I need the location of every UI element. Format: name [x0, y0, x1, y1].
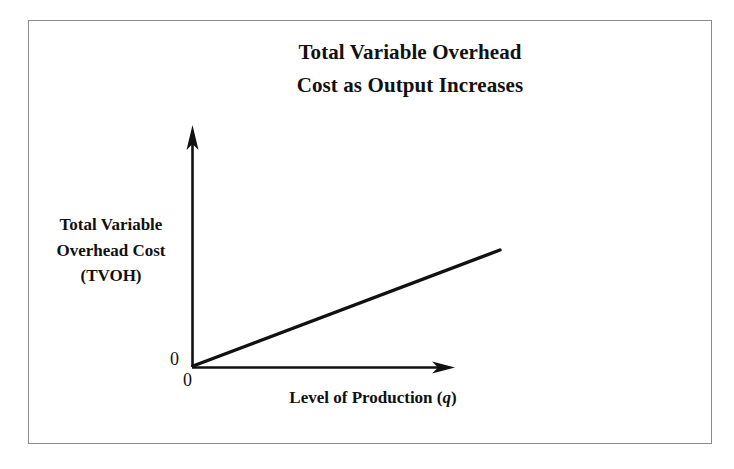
x-axis-label-text: Level of Production ( — [289, 388, 442, 407]
x-axis-label: Level of Production (q) — [238, 388, 508, 408]
figure-page: Total Variable Overhead Cost as Output I… — [0, 0, 734, 469]
x-axis-label-close: ) — [451, 388, 457, 407]
origin-label-x-axis: 0 — [183, 371, 192, 389]
y-axis-group — [187, 125, 199, 367]
origin-label-y-axis: 0 — [170, 350, 179, 368]
x-axis-group — [192, 362, 455, 374]
x-axis-label-variable: q — [442, 388, 451, 407]
total-variable-overhead-cost-line — [193, 250, 500, 366]
